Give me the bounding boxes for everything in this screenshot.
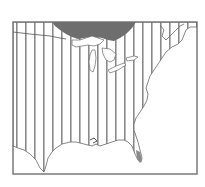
land-area — [13, 22, 197, 172]
florida-tip — [136, 150, 142, 163]
eastern-us-hatched-map — [0, 0, 205, 187]
